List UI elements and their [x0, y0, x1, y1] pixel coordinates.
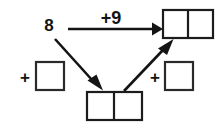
arrow-math-diagram: 8 +9 top right box --> [0, 0, 224, 130]
left-addend-box-outline[interactable] [36, 62, 64, 90]
left-addend-box[interactable] [36, 62, 64, 90]
right-addend-box-outline[interactable] [165, 62, 193, 90]
plus-nine-label: +9 [101, 8, 122, 28]
bottom-answer-box[interactable] [87, 92, 142, 120]
top-right-answer-box[interactable] [163, 10, 213, 38]
diagram-canvas: 8 +9 top right box --> [0, 0, 224, 130]
right-plus-sign: + [150, 68, 160, 87]
right-addend-box[interactable] [165, 62, 193, 90]
start-number-label: 8 [44, 16, 53, 35]
left-plus-sign: + [20, 68, 30, 87]
